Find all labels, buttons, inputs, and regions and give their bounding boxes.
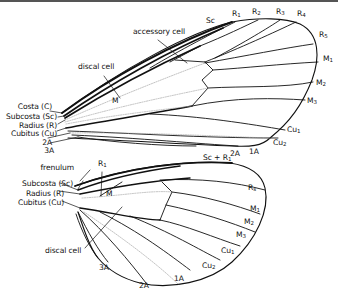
label-r1: R1 [232,10,241,19]
label-m3: M3 [307,97,317,106]
forewing-m3-vein [192,99,305,106]
label-hind-cubitus: Cubitus (Cu) [0,199,64,207]
label-hind-cu2: Cu2 [202,262,215,271]
forewing-discal-crossvein [192,62,213,106]
forewing-outline [62,19,317,147]
label-hind-m3: M3 [236,231,246,240]
forewing-r3-vein [215,20,280,58]
label-frenulum: frenulum [0,164,74,172]
label-hind-m: M [106,190,112,198]
label-hind-r1: R1 [98,160,107,169]
label-2a-margin: 2A [230,150,240,158]
label-hind-2a: 2A [139,282,149,290]
hindwing-radius-vein [80,178,190,194]
label-hind-cu1: Cu1 [221,247,234,256]
forewing-cu-vein [66,106,192,128]
forewing [48,19,318,147]
label-accessory-cell: accessory cell [133,28,185,36]
hindwing-subcosta-vein [78,166,180,190]
forewing-r5-vein [205,44,313,63]
label-hind-radius: Radius (R) [0,190,64,198]
label-costa: Costa (C) [0,103,52,111]
label-r4: R4 [297,10,306,19]
label-subcosta: Subcosta (Sc) [0,113,57,121]
forewing-m2-vein [208,82,313,88]
hindwing-m-faint-vein [82,192,172,198]
label-r5: R5 [319,31,328,40]
hindwing-m2-vein [166,205,255,232]
hindwing-m1-vein [172,192,260,214]
label-3a: 3A [0,147,54,155]
label-hind-1a: 1A [174,275,184,283]
label-cu1: Cu1 [287,126,300,135]
hindwing-cu1-vein [130,216,220,260]
label-hind-m2: M2 [244,218,254,227]
hindwing-discal-leader [85,207,122,248]
hindwing-m3-vein [160,220,240,246]
label-m1: M1 [323,55,333,64]
forewing-cu1-vein [150,114,285,130]
hindwing-discal-crossvein [160,182,172,220]
label-hind-discal-cell: discal cell [45,247,81,255]
label-discal-cell: discal cell [78,63,114,71]
label-m2: M2 [316,79,326,88]
hindwing-3a-vein [78,212,108,262]
forewing-r4-vein [205,22,296,62]
label-sc: Sc [206,17,215,25]
label-r2: R2 [252,8,261,17]
forewing-m1-vein [213,62,318,70]
hindwing [59,162,266,285]
label-sc-r1: Sc + R1 [203,154,231,163]
forewing-subcosta-vein [64,28,223,116]
hindwing-cu2-vein [100,212,190,270]
label-rs: Rs [248,184,256,193]
hindwing-cu-vein [80,208,160,220]
label-r3: R3 [276,8,285,17]
label-m: M [112,97,118,105]
label-hind-3a: 3A [99,264,109,272]
label-cubitus: Cubitus (Cu) [0,130,57,138]
label-1a: 1A [249,148,259,156]
label-cu2: Cu2 [273,139,286,148]
label-hind-subcosta: Subcosta (Sc) [0,180,73,188]
label-hind-m1: M1 [250,205,260,214]
